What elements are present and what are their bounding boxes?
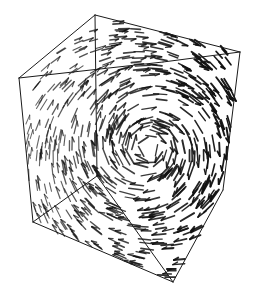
vector-glyph [161,244,173,245]
vector-glyph [139,162,155,163]
vector-glyph [151,65,162,66]
vector-glyph-arrowhead [53,100,54,105]
vector-glyph-arrowhead [159,128,164,129]
vector-glyph [131,29,141,30]
vector-glyph [158,275,168,276]
vector-glyph-arrowhead [76,115,77,120]
vector-glyph-arrowhead [208,68,212,69]
vector-glyph [39,153,40,166]
vector-glyph [46,151,47,161]
vector-glyph-arrowhead [118,217,123,218]
vector-glyph-arrowhead [102,105,103,110]
vector-glyph-arrowhead [157,57,161,58]
vector-glyph [141,75,154,76]
vector-glyph-arrowhead [194,44,198,45]
vector-glyph-arrowhead [109,125,110,130]
vector-glyph-arrowhead [140,250,144,251]
vector-glyph-arrowhead [196,59,200,60]
vector-field-canvas [0,0,255,297]
vector-glyph-arrowhead [134,163,139,164]
vector-glyph [131,62,141,63]
vector-field-figure [0,0,255,297]
vector-glyph [113,23,123,24]
vector-glyph-arrowhead [211,196,212,201]
vector-glyph-arrowhead [97,104,98,109]
vector-glyph-arrowhead [130,261,135,262]
vector-glyph-arrowhead [191,77,196,78]
vector-glyph-arrowhead [33,130,34,134]
vector-glyph-arrowhead [100,212,105,213]
vector-glyph [156,99,166,100]
vector-glyph-arrowhead [178,166,179,171]
vector-glyph-arrowhead [175,182,176,187]
vector-glyph [135,65,150,66]
vector-glyph-arrowhead [166,47,171,48]
vector-glyph-arrowhead [189,88,194,89]
vector-glyph-arrowhead [136,135,137,140]
vector-glyph-arrowhead [198,98,203,99]
vector-glyph-arrowhead [128,254,133,255]
vector-glyph [135,32,144,33]
vector-glyph-arrowhead [163,156,164,161]
vector-glyph [124,52,136,53]
vector-glyph-arrowhead [208,194,209,198]
